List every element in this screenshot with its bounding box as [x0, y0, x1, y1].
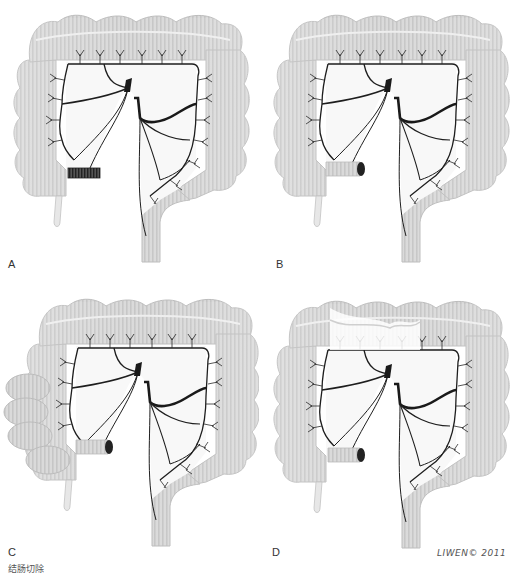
panel-label-b: B	[276, 258, 283, 270]
artist-signature: LIWEN© 2011	[437, 548, 506, 558]
panel-label-a: A	[8, 258, 15, 270]
staple-line-icon	[68, 168, 100, 178]
panel-d: D	[260, 290, 519, 576]
panel-c: C	[0, 290, 259, 576]
figure-caption: 结肠切除	[8, 562, 44, 575]
ileal-stump-icon	[357, 162, 365, 176]
panel-a: A	[0, 0, 259, 286]
panel-label-d: D	[272, 546, 280, 558]
ileal-stump-icon	[105, 440, 113, 454]
ileal-stump-icon	[357, 448, 365, 462]
colon-illustration-d	[260, 290, 519, 576]
panel-label-c: C	[8, 546, 16, 558]
panel-b: B	[260, 0, 519, 286]
colon-illustration-b	[260, 0, 519, 286]
colon-illustration-c	[0, 290, 259, 576]
colon-illustration-a	[0, 0, 259, 286]
